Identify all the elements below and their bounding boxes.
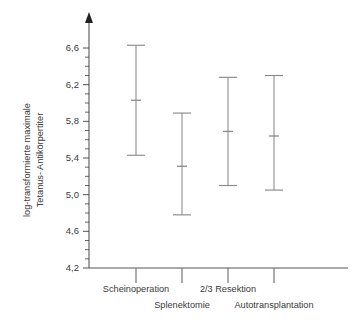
y-tick-label: 4,2	[66, 262, 79, 273]
chart-container: log-transformierte maximale Tetanus- Ant…	[0, 0, 354, 322]
y-axis-title-line2: Tetanus- Antikörpertiter	[35, 113, 45, 207]
y-tick-label: 6,6	[66, 42, 79, 53]
y-axis-title-line1: log-transformierte maximale	[22, 103, 32, 217]
y-axis-arrow-icon	[85, 12, 93, 23]
x-category-label: Autotransplantation	[234, 300, 313, 310]
y-axis-ticks: 4,24,65,05,45,86,26,6	[66, 42, 89, 273]
x-category-label: 2/3 Resektion	[200, 284, 256, 294]
x-axis-category-labels: ScheinoperationSplenektomie2/3 Resektion…	[103, 284, 314, 310]
y-axis-title: log-transformierte maximale Tetanus- Ant…	[22, 103, 45, 217]
x-category-label: Scheinoperation	[103, 284, 169, 294]
x-axis-category-ticks	[136, 268, 274, 283]
errorbar	[127, 45, 145, 155]
y-tick-label: 5,0	[66, 189, 79, 200]
y-tick-label: 6,2	[66, 79, 79, 90]
errorbar	[265, 76, 283, 191]
errorbar-chart: log-transformierte maximale Tetanus- Ant…	[0, 0, 354, 322]
y-tick-label: 5,4	[66, 152, 79, 163]
axes	[85, 12, 348, 268]
y-tick-label: 5,8	[66, 115, 79, 126]
y-tick-label: 4,6	[66, 225, 79, 236]
errorbar	[219, 77, 237, 185]
errorbar	[173, 113, 191, 215]
errorbar-group	[127, 45, 283, 215]
x-category-label: Splenektomie	[154, 300, 210, 310]
